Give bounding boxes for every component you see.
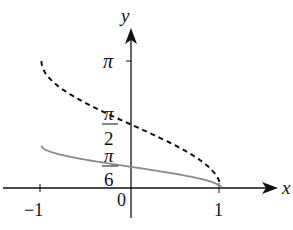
x-tick-label-neg1: −1 <box>24 200 43 220</box>
y-tick-label-pi: π <box>103 50 114 72</box>
x-axis-label: x <box>281 177 291 198</box>
origin-label: 0 <box>117 190 126 210</box>
x-tick-label-1: 1 <box>214 200 223 220</box>
y-tick-label-sixth-den: 6 <box>104 169 114 190</box>
y-tick-label-sixth-num: π <box>104 145 114 166</box>
y-axis-label: y <box>119 5 130 26</box>
y-tick-label-half-num: π <box>104 103 114 124</box>
plot-canvas: y x π π 2 π 6 0 −1 1 <box>0 0 293 230</box>
